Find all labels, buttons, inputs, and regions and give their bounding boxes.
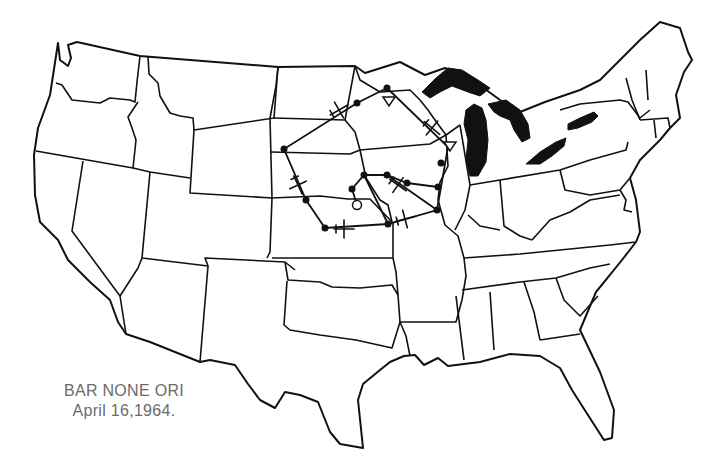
route-stop [434,207,441,214]
route-stop [384,85,391,92]
route-stop [404,180,411,187]
route-stop [385,221,392,228]
route-stop [322,225,329,232]
route-stop [361,172,368,179]
caption-date: April 16,1964. [24,401,224,421]
route-stop [435,184,442,191]
map-caption: BAR NONE ORI April 16,1964. [24,381,224,421]
route-stop [354,100,361,107]
route-stop [303,197,310,204]
route-stop [281,146,288,153]
route-stop [438,160,445,167]
caption-title: BAR NONE ORI [24,381,224,401]
lake-michigan [464,104,488,176]
route-stop [349,186,356,193]
route-origin [353,201,362,210]
route-stop [384,172,391,179]
